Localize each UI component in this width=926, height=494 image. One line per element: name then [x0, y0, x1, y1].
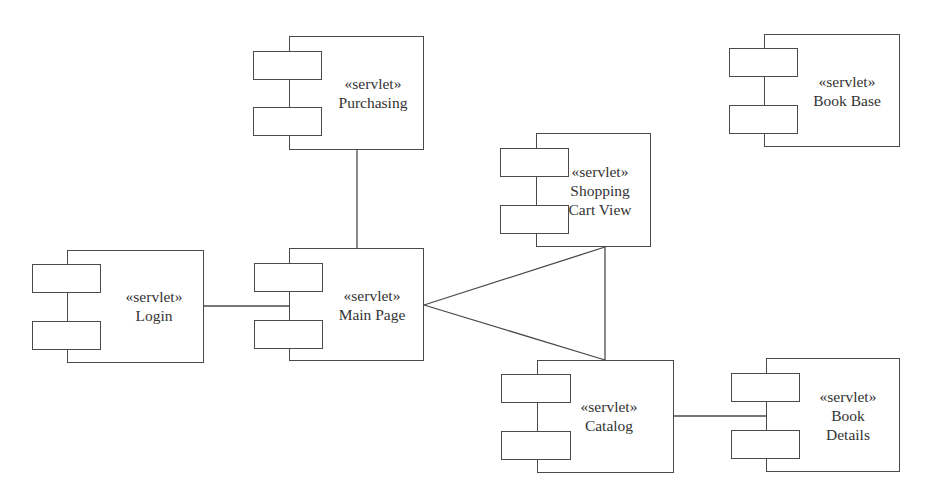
component-label: «servlet»ShoppingCart View — [530, 162, 670, 219]
component-name-text: Book — [778, 406, 918, 425]
component-name-text: Shopping — [530, 181, 670, 200]
component-port-icon — [32, 321, 101, 350]
component-label: «servlet»Login — [84, 287, 224, 325]
component-label: «servlet»Book Base — [777, 72, 917, 110]
stereotype-text: «servlet» — [530, 162, 670, 181]
component-name-text: Book Base — [777, 91, 917, 110]
stereotype-text: «servlet» — [303, 74, 443, 93]
component-label: «servlet»Main Page — [302, 286, 442, 324]
component-name-text: Purchasing — [303, 93, 443, 112]
component-name-text: Details — [778, 425, 918, 444]
stereotype-text: «servlet» — [84, 287, 224, 306]
stereotype-text: «servlet» — [302, 286, 442, 305]
component-label: «servlet»BookDetails — [778, 387, 918, 444]
stereotype-text: «servlet» — [777, 72, 917, 91]
component-diagram: «servlet»Purchasing«servlet»Login«servle… — [0, 0, 926, 494]
connector-main-page-catalog — [424, 305, 605, 360]
stereotype-text: «servlet» — [539, 397, 679, 416]
component-label: «servlet»Purchasing — [303, 74, 443, 112]
component-name-text: Login — [84, 306, 224, 325]
component-port-icon — [254, 320, 323, 349]
connector-main-page-shopping-cart-view — [424, 247, 605, 305]
stereotype-text: «servlet» — [778, 387, 918, 406]
component-label: «servlet»Catalog — [539, 397, 679, 435]
component-name-text: Cart View — [530, 200, 670, 219]
component-port-icon — [501, 431, 571, 460]
component-name-text: Main Page — [302, 305, 442, 324]
component-name-text: Catalog — [539, 416, 679, 435]
